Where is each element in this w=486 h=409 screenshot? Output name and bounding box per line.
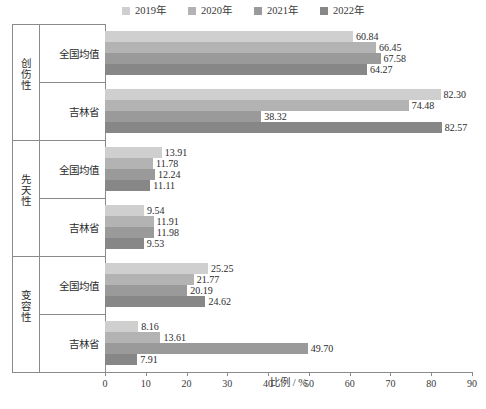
bar-value-label: 66.45: [376, 42, 402, 53]
bar-value-label: 21.77: [194, 274, 220, 285]
y-axis-outer-spine: [12, 24, 13, 140]
bar-chart: 2019年2020年2021年2022年 0102030405060708090…: [0, 0, 486, 409]
legend-item[interactable]: 2022年: [320, 6, 364, 17]
legend-item[interactable]: 2019年: [122, 6, 166, 17]
bar-value-label: 64.27: [367, 64, 393, 75]
y-axis-group-separator: [39, 24, 105, 25]
bar: [105, 100, 409, 111]
legend-item[interactable]: 2021年: [254, 6, 298, 17]
bar: [105, 111, 261, 122]
y-axis-subcategory-label: 全国均值: [43, 278, 99, 293]
bar-value-label: 13.91: [162, 147, 188, 158]
plot-area: 010203040506070809060.8466.4567.5864.27全…: [105, 24, 472, 372]
bar: [105, 64, 367, 75]
bar-value-label: 74.48: [409, 100, 435, 111]
bar-value-label: 20.19: [187, 285, 213, 296]
bar: [105, 274, 194, 285]
bar: [105, 158, 153, 169]
bar: [105, 169, 155, 180]
bar: [105, 332, 160, 343]
bar-value-label: 24.62: [205, 296, 231, 307]
y-axis-group-label-text: 变容性: [19, 290, 30, 323]
y-axis-subcategory-label: 全国均值: [43, 162, 99, 177]
bar-value-label: 38.32: [261, 111, 287, 122]
y-axis-group-separator: [39, 256, 105, 257]
bar-value-label: 11.91: [154, 216, 179, 227]
y-axis-subcategory-label: 吉林省: [43, 104, 99, 119]
y-axis-group-label: 先天性: [19, 174, 30, 209]
y-axis-subrow-separator: [39, 82, 105, 83]
bar-value-label: 8.16: [138, 321, 159, 332]
y-axis-outer-separator: [12, 372, 39, 373]
bar-value-label: 11.78: [153, 158, 178, 169]
legend-item[interactable]: 2020年: [188, 6, 232, 17]
y-axis-subcategory-label: 吉林省: [43, 336, 99, 351]
y-axis-group-separator: [39, 372, 105, 373]
bar-value-label: 82.30: [441, 89, 467, 100]
bar-value-label: 49.70: [308, 343, 334, 354]
y-axis-subrow-separator: [39, 198, 105, 199]
bar: [105, 285, 187, 296]
bar: [105, 31, 353, 42]
bar: [105, 321, 138, 332]
bar: [105, 227, 154, 238]
legend-swatch-icon: [122, 7, 130, 15]
x-axis-line: [105, 372, 472, 373]
y-axis-group-label-text: 先天性: [19, 174, 30, 207]
legend-swatch-icon: [320, 7, 328, 15]
bar: [105, 238, 144, 249]
bar: [105, 263, 208, 274]
y-axis-outer-separator: [12, 140, 39, 141]
legend-label: 2021年: [267, 6, 298, 17]
y-axis-outer-spine: [12, 140, 13, 256]
y-axis-subcategory-label: 全国均值: [43, 46, 99, 61]
bar: [105, 147, 162, 158]
bar-value-label: 9.54: [144, 205, 165, 216]
bar-value-label: 11.11: [150, 180, 175, 191]
legend-label: 2022年: [333, 6, 364, 17]
legend-swatch-icon: [254, 7, 262, 15]
bar: [105, 205, 144, 216]
y-axis-group-label: 创伤性: [19, 58, 30, 93]
bar: [105, 296, 205, 307]
y-axis-line: [105, 24, 106, 372]
bar-value-label: 7.91: [137, 354, 158, 365]
bar-value-label: 9.53: [144, 238, 165, 249]
x-axis-tick: [472, 372, 473, 376]
bar-value-label: 13.61: [160, 332, 186, 343]
bar-value-label: 67.58: [381, 53, 407, 64]
legend-swatch-icon: [188, 7, 196, 15]
legend-label: 2019年: [135, 6, 166, 17]
y-axis-group-label-text: 创伤性: [19, 58, 30, 91]
bar: [105, 42, 376, 53]
bar: [105, 89, 441, 100]
y-axis-outer-spine: [12, 256, 13, 372]
bar: [105, 122, 442, 133]
y-axis-group-separator: [39, 140, 105, 141]
bar: [105, 216, 154, 227]
bar-value-label: 60.84: [353, 31, 379, 42]
y-axis-group-label: 变容性: [19, 290, 30, 325]
bar-value-label: 11.98: [154, 227, 179, 238]
bar-value-label: 82.57: [442, 122, 468, 133]
y-axis-outer-separator: [12, 24, 39, 25]
bar: [105, 53, 381, 64]
y-axis-outer-separator: [12, 256, 39, 257]
chart-legend: 2019年2020年2021年2022年: [0, 6, 486, 17]
bar-value-label: 25.25: [208, 263, 234, 274]
y-axis-subcategory-label: 吉林省: [43, 220, 99, 235]
x-axis-title: 比例 / %: [105, 374, 472, 389]
bar: [105, 354, 137, 365]
bar-value-label: 12.24: [155, 169, 181, 180]
bar: [105, 343, 308, 354]
bar: [105, 180, 150, 191]
legend-label: 2020年: [201, 6, 232, 17]
y-axis-subrow-separator: [39, 314, 105, 315]
